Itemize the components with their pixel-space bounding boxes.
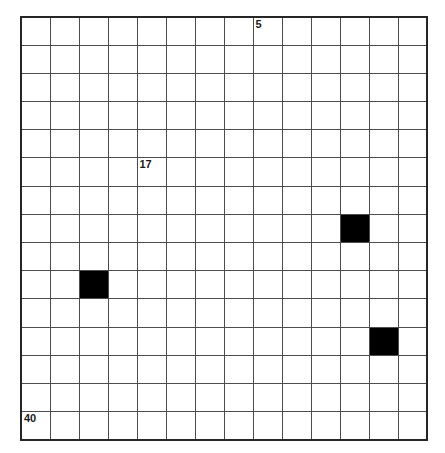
grid-cell[interactable] [369,383,398,411]
grid-cell[interactable] [108,73,137,101]
grid-cell[interactable] [108,355,137,383]
grid-cell[interactable] [21,243,50,271]
grid-cell[interactable] [340,73,369,101]
grid-cell[interactable] [369,243,398,271]
grid-cell[interactable] [79,102,108,130]
grid-cell[interactable] [311,45,340,73]
grid-cell[interactable] [108,102,137,130]
grid-cell[interactable] [79,17,108,45]
grid-cell[interactable] [166,73,195,101]
grid-cell[interactable] [369,130,398,158]
grid-cell[interactable] [340,45,369,73]
grid-cell[interactable] [340,271,369,299]
grid-cell[interactable] [108,243,137,271]
grid-cell[interactable]: 40 [21,412,50,440]
grid-cell[interactable] [50,102,79,130]
grid-cell[interactable] [398,412,427,440]
grid-cell[interactable] [79,243,108,271]
grid-cell[interactable] [50,299,79,327]
grid-cell[interactable] [79,412,108,440]
grid-cell[interactable] [224,327,253,355]
grid-cell[interactable] [369,73,398,101]
grid-cell[interactable] [195,186,224,214]
grid-cell[interactable] [398,186,427,214]
grid-cell[interactable] [311,243,340,271]
grid-cell[interactable] [253,243,282,271]
grid-cell[interactable]: 17 [137,158,166,186]
grid-cell[interactable] [21,102,50,130]
grid-cell[interactable] [108,299,137,327]
grid-cell[interactable] [195,130,224,158]
grid-cell[interactable] [137,299,166,327]
grid-cell[interactable] [311,355,340,383]
grid-cell[interactable] [253,355,282,383]
grid-cell[interactable] [282,158,311,186]
grid-cell[interactable] [282,412,311,440]
grid-cell[interactable] [166,214,195,242]
grid-cell[interactable] [50,214,79,242]
grid-cell[interactable] [311,299,340,327]
grid-cell[interactable] [108,130,137,158]
grid-cell[interactable] [195,45,224,73]
grid-cell[interactable] [195,214,224,242]
grid-cell[interactable] [398,102,427,130]
grid-cell[interactable] [166,17,195,45]
grid-cell[interactable] [224,17,253,45]
grid-cell[interactable] [282,271,311,299]
grid-cell[interactable] [398,214,427,242]
grid-cell[interactable] [166,158,195,186]
grid-cell[interactable] [282,214,311,242]
grid-cell[interactable] [21,355,50,383]
grid-cell[interactable] [253,412,282,440]
grid-cell[interactable] [166,130,195,158]
grid-cell[interactable] [311,73,340,101]
grid-cell[interactable] [340,102,369,130]
grid-cell[interactable] [108,383,137,411]
grid-cell[interactable] [50,130,79,158]
grid-cell[interactable] [398,17,427,45]
grid-cell[interactable] [311,383,340,411]
grid-cell[interactable] [311,102,340,130]
grid-cell[interactable] [398,271,427,299]
grid-cell[interactable] [166,243,195,271]
grid-cell[interactable] [369,45,398,73]
grid-cell[interactable] [224,383,253,411]
grid-cell[interactable] [108,186,137,214]
grid-cell[interactable] [311,130,340,158]
grid-cell[interactable] [50,45,79,73]
grid-cell[interactable] [311,158,340,186]
grid-cell[interactable] [21,130,50,158]
grid-cell[interactable] [21,214,50,242]
grid-cell[interactable] [195,412,224,440]
grid-cell[interactable] [311,214,340,242]
grid-cell[interactable] [195,158,224,186]
grid-cell-filled[interactable] [79,271,108,299]
grid-cell[interactable] [282,17,311,45]
grid-cell[interactable] [369,17,398,45]
grid-cell-filled[interactable] [369,327,398,355]
grid-cell[interactable] [224,355,253,383]
grid-cell[interactable] [340,243,369,271]
grid-cell[interactable] [195,73,224,101]
grid-cell[interactable] [224,102,253,130]
grid-cell[interactable] [224,186,253,214]
grid-cell[interactable] [340,186,369,214]
grid-cell[interactable] [166,45,195,73]
grid-cell[interactable] [166,383,195,411]
grid-cell[interactable]: 5 [253,17,282,45]
grid-cell[interactable] [50,412,79,440]
grid-cell[interactable] [340,355,369,383]
grid-cell[interactable] [166,299,195,327]
grid-cell[interactable] [79,299,108,327]
grid-cell[interactable] [224,73,253,101]
grid-cell[interactable] [398,243,427,271]
grid-cell[interactable] [398,158,427,186]
grid-cell[interactable] [50,271,79,299]
grid-cell[interactable] [195,355,224,383]
grid-cell[interactable] [253,102,282,130]
grid-cell[interactable] [137,186,166,214]
grid-cell[interactable] [311,327,340,355]
grid-cell[interactable] [369,158,398,186]
grid-cell[interactable] [282,73,311,101]
grid-cell[interactable] [21,186,50,214]
